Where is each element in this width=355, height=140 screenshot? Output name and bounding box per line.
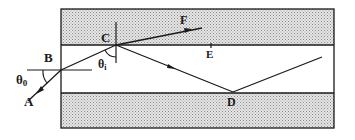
bottom-cladding bbox=[61, 93, 334, 128]
label-theta0: θ0 bbox=[16, 72, 28, 88]
label-a: A bbox=[24, 94, 34, 109]
label-d: D bbox=[227, 95, 236, 109]
label-e: E bbox=[206, 48, 213, 60]
label-b: B bbox=[44, 50, 53, 65]
ray-refracted bbox=[61, 45, 116, 70]
waveguide-diagram: A B C D E F θ0 θi bbox=[0, 0, 355, 140]
label-c: C bbox=[101, 30, 110, 45]
label-theta1: θi bbox=[98, 57, 107, 72]
arrow-icon bbox=[167, 64, 176, 69]
angle-arc-theta1 bbox=[105, 50, 116, 57]
ray-reflected-again bbox=[233, 57, 322, 92]
label-f: F bbox=[180, 13, 187, 27]
angle-arc-theta0 bbox=[43, 70, 47, 83]
